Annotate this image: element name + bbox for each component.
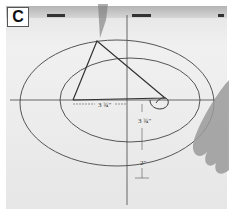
dim-vertical-upper: 3 ¾" [138,117,152,125]
figure-panel: C 3 ¾" 3 ¾" 2" [0,0,229,211]
ellipse-drawing: 3 ¾" 3 ¾" 2" [0,0,229,211]
panel-label: C [7,7,29,27]
dim-vertical-lower: 2" [140,159,147,167]
dim-horizontal: 3 ¾" [98,101,112,109]
